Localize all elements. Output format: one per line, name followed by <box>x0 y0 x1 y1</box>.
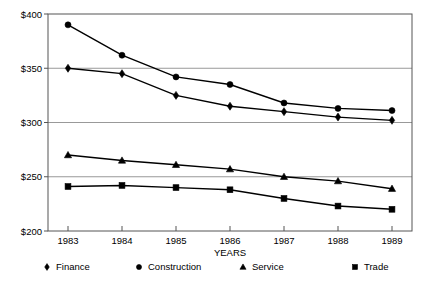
y-axis-tick-labels-group: $200$250$300$350$400 <box>21 9 48 237</box>
y-tick-label: $250 <box>21 171 42 182</box>
diamond-marker-icon <box>45 264 50 271</box>
y-tick-label: $300 <box>21 117 42 128</box>
y-tick-label: $200 <box>21 226 42 237</box>
datapoint-construction-1986 <box>227 82 233 88</box>
datapoint-trade-1988 <box>335 203 341 209</box>
datapoint-finance-1988 <box>335 113 340 121</box>
series-line-construction <box>68 25 392 111</box>
legend-label-trade: Trade <box>364 261 388 272</box>
series-construction <box>65 22 395 114</box>
x-axis-tick-labels-group: 1983198419851986198719881989 <box>57 235 402 246</box>
datapoint-construction-1989 <box>389 108 395 114</box>
datapoint-finance-1986 <box>227 102 232 110</box>
x-tick-label: 1989 <box>381 235 402 246</box>
circle-marker-icon <box>136 264 141 269</box>
legend: FinanceConstructionServiceTrade <box>45 261 389 272</box>
line-chart: $200$250$300$350$400 1983198419851986198… <box>0 0 423 281</box>
datapoint-finance-1987 <box>281 108 286 116</box>
x-tick-label: 1987 <box>273 235 294 246</box>
datapoint-finance-1989 <box>389 116 394 124</box>
series-line-finance <box>68 68 392 120</box>
legend-label-service: Service <box>252 261 284 272</box>
x-axis-ticks-group <box>68 226 392 231</box>
x-tick-label: 1988 <box>327 235 348 246</box>
triangle-marker-icon <box>240 264 246 269</box>
series-finance <box>65 64 394 124</box>
datapoint-trade-1983 <box>65 184 71 190</box>
legend-label-construction: Construction <box>148 261 201 272</box>
y-tick-label: $350 <box>21 63 42 74</box>
legend-item-finance[interactable]: Finance <box>45 261 90 272</box>
datapoint-trade-1984 <box>119 183 125 189</box>
datapoint-construction-1985 <box>173 74 179 80</box>
datapoint-trade-1987 <box>281 196 287 202</box>
chart-canvas: $200$250$300$350$400 1983198419851986198… <box>0 0 423 281</box>
datapoint-construction-1984 <box>119 52 125 58</box>
data-series-group <box>64 22 395 212</box>
x-tick-label: 1984 <box>111 235 132 246</box>
series-trade <box>65 183 395 213</box>
legend-item-construction[interactable]: Construction <box>136 261 201 272</box>
legend-item-service[interactable]: Service <box>240 261 284 272</box>
datapoint-trade-1989 <box>389 206 395 212</box>
legend-item-trade[interactable]: Trade <box>353 261 389 272</box>
x-axis-title: YEARS <box>214 247 246 258</box>
x-tick-label: 1985 <box>165 235 186 246</box>
x-tick-label: 1983 <box>57 235 78 246</box>
x-tick-label: 1986 <box>219 235 240 246</box>
datapoint-construction-1988 <box>335 105 341 111</box>
datapoint-finance-1983 <box>65 64 70 72</box>
datapoint-trade-1986 <box>227 187 233 193</box>
legend-label-finance: Finance <box>56 261 90 272</box>
square-marker-icon <box>353 265 358 270</box>
y-tick-label: $400 <box>21 9 42 20</box>
datapoint-construction-1987 <box>281 100 287 106</box>
datapoint-finance-1984 <box>119 70 124 78</box>
datapoint-trade-1985 <box>173 185 179 191</box>
datapoint-finance-1985 <box>173 91 178 99</box>
datapoint-construction-1983 <box>65 22 71 28</box>
